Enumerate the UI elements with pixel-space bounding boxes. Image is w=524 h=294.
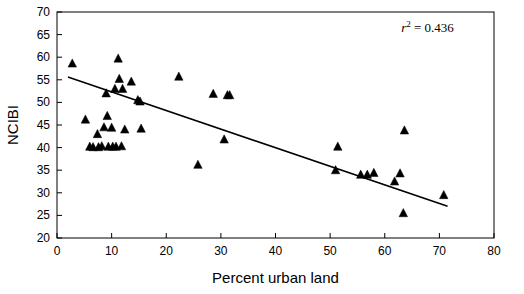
y-axis-label: NCIBI bbox=[4, 105, 21, 145]
x-tick-label: 10 bbox=[105, 244, 119, 258]
y-tick-label: 70 bbox=[37, 5, 51, 19]
x-tick-label: 80 bbox=[487, 244, 501, 258]
x-tick-label: 40 bbox=[269, 244, 283, 258]
r-value: = 0.436 bbox=[411, 20, 455, 35]
y-tick-label: 55 bbox=[37, 73, 51, 87]
scatter-plot: 202530354045505560657001020304050607080r… bbox=[0, 0, 524, 294]
y-tick-label: 50 bbox=[37, 95, 51, 109]
y-tick-label: 25 bbox=[37, 208, 51, 222]
x-tick-label: 60 bbox=[378, 244, 392, 258]
y-tick-label: 35 bbox=[37, 163, 51, 177]
x-axis-label: Percent urban land bbox=[212, 269, 339, 286]
y-tick-label: 30 bbox=[37, 186, 51, 200]
plot-frame bbox=[57, 12, 494, 238]
x-tick-label: 0 bbox=[54, 244, 61, 258]
y-tick-label: 20 bbox=[37, 231, 51, 245]
x-tick-label: 50 bbox=[323, 244, 337, 258]
x-tick-label: 70 bbox=[433, 244, 447, 258]
y-tick-label: 60 bbox=[37, 50, 51, 64]
y-tick-label: 40 bbox=[37, 141, 51, 155]
x-tick-label: 20 bbox=[160, 244, 174, 258]
chart-container: 202530354045505560657001020304050607080r… bbox=[0, 0, 524, 294]
y-tick-label: 65 bbox=[37, 28, 51, 42]
y-tick-label: 45 bbox=[37, 118, 51, 132]
x-tick-label: 30 bbox=[214, 244, 228, 258]
